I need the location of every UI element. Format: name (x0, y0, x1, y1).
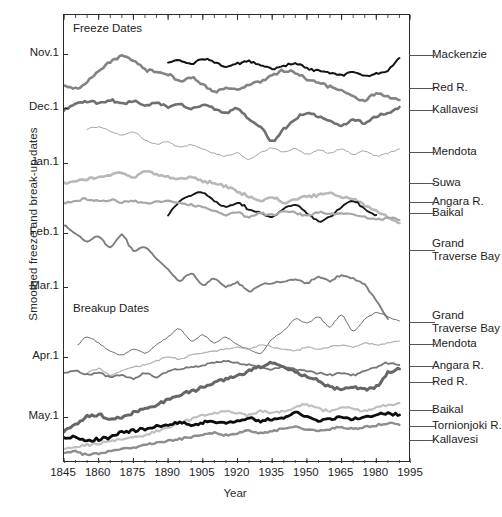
series-leader-line (409, 250, 435, 251)
series-label-grand-traverse-bay-freeze: GrandTraverse Bay (432, 237, 500, 262)
y-tick-mark (63, 108, 68, 109)
series-label-angara-r-breakup: Angara R. (432, 359, 484, 372)
series-label-red-r-breakup: Red R. (432, 375, 468, 388)
y-tick-mark (63, 357, 68, 358)
series-leader-line (409, 382, 435, 383)
series-leader-line (409, 366, 435, 367)
series-label-kallavesi-breakup: Kallavesi (432, 433, 478, 446)
series-label-line: Grand (432, 237, 500, 250)
series-leader-line (409, 88, 435, 89)
series-leader-line (409, 55, 435, 56)
series-label-mendota-freeze: Mendota (432, 145, 477, 158)
series-label-tornionjoki-r-breakup: Tornionjoki R. (432, 419, 502, 432)
y-tick-mark (63, 54, 68, 55)
y-tick-mark (63, 233, 68, 234)
y-tick-mark (63, 163, 68, 164)
caption-remnant (14, 509, 484, 514)
series-leader-line (409, 202, 435, 203)
series-leader-line (409, 344, 435, 345)
series-label-line: Traverse Bay (432, 250, 500, 263)
series-label-baikal-freeze: Baikal (432, 206, 463, 219)
series-label-line: Traverse Bay (432, 322, 500, 335)
series-label-grand-traverse-bay-breakup: GrandTraverse Bay (432, 309, 500, 334)
series-leader-line (409, 183, 435, 184)
series-label-baikal-breakup: Baikal (432, 403, 463, 416)
y-tick-mark (63, 417, 68, 418)
y-tick-mark (63, 287, 68, 288)
series-leader-line (409, 410, 435, 411)
series-leader-line (409, 110, 435, 111)
series-label-line: Grand (432, 309, 500, 322)
series-label-red-r-freeze: Red R. (432, 81, 468, 94)
series-label-kallavesi-freeze: Kallavesi (432, 103, 478, 116)
series-label-mendota-breakup: Mendota (432, 337, 477, 350)
series-leader-line (409, 322, 435, 323)
series-leader-line (409, 426, 435, 427)
series-leader-line (409, 213, 435, 214)
series-label-suwa-freeze: Suwa (432, 176, 461, 189)
series-label-mackenzie-freeze: Mackenzie (432, 48, 487, 61)
series-leader-line (409, 152, 435, 153)
series-leader-line (409, 440, 435, 441)
